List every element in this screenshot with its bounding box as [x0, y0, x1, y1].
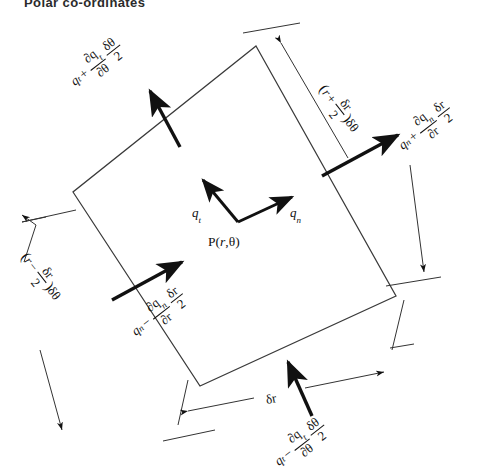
qt-letter: q: [192, 205, 199, 220]
figure-root: Polar co-ordinates: [0, 0, 491, 476]
delta-denominator: 2: [440, 109, 457, 127]
center-vector-qn: [238, 197, 292, 222]
qt-sub: t: [199, 215, 202, 225]
dimension-radial: [178, 300, 404, 425]
delta-denominator: 2: [314, 427, 331, 445]
vector-label-qt: qt: [192, 205, 201, 223]
dimension-inner-arc: [22, 210, 215, 441]
flux-arrow-right: [322, 135, 398, 176]
vector-label-qn: qn: [290, 205, 301, 223]
point-close: ): [235, 234, 240, 249]
point-p: P(: [208, 234, 220, 249]
qn-sub: n: [297, 215, 302, 225]
delta-denominator: 2: [110, 47, 127, 65]
qn-letter: q: [290, 205, 297, 220]
delta-denominator: 2: [173, 295, 190, 313]
point-label: P(r,θ): [208, 234, 240, 250]
flux-arrow-top-left: [150, 91, 180, 147]
flux-arrow-bottom: [288, 362, 312, 416]
center-vector-qt: [203, 180, 238, 222]
